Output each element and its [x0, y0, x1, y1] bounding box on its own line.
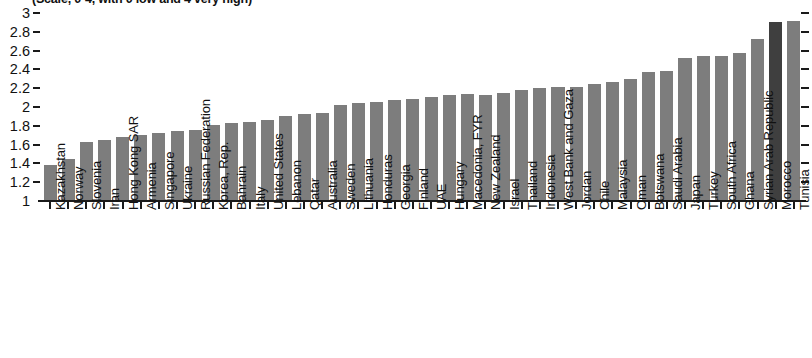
x-axis-category-label: New Zealand [489, 135, 502, 211]
y-axis-tick [33, 12, 40, 14]
x-label-slot: Israel [495, 210, 513, 358]
x-axis-category-label: Oman [635, 175, 648, 210]
y-axis-tick-right [801, 31, 809, 33]
x-axis-category-label: Georgia [399, 164, 412, 210]
x-axis-category-label: Ukraine [181, 166, 194, 210]
y-axis-tick-label: 1 [22, 194, 30, 209]
y-axis-tick-label: 1.4 [10, 156, 30, 171]
x-label-slot: Finland [404, 210, 422, 358]
x-axis-category-label: Syrian Arab Republic [762, 91, 775, 210]
x-label-slot: Norway [59, 210, 77, 358]
x-label-slot: Japan [676, 210, 694, 358]
x-label-slot: Kazakhstan [41, 210, 59, 358]
x-axis-category-label: Tunisia [798, 169, 811, 210]
x-axis-category-label: Hungary [453, 162, 466, 210]
x-label-slot: Turkey [694, 210, 712, 358]
x-label-slot: Thailand [513, 210, 531, 358]
x-axis-category-label: Chile [598, 181, 611, 210]
x-axis-category-label: Saudi Arabia [671, 137, 684, 210]
y-axis-tick-right [801, 12, 809, 14]
x-label-slot: Malaysia [603, 210, 621, 358]
x-axis-category-label: South Africa [725, 141, 738, 210]
x-label-slot: United States [259, 210, 277, 358]
x-label-slot: Australia [313, 210, 331, 358]
x-axis-category-label: Russian Federation [199, 99, 212, 210]
x-label-slot: Jordan [567, 210, 585, 358]
x-axis-category-label: UAE [435, 184, 448, 210]
y-axis-tick-right [801, 87, 809, 89]
x-label-slot: Italy [241, 210, 259, 358]
y-axis-tick [33, 125, 40, 127]
x-axis-category-label: Botswana [653, 154, 666, 210]
x-label-slot: Syrian Arab Republic [748, 210, 766, 358]
x-label-slot: Oman [622, 210, 640, 358]
x-axis-category-label: Armenia [145, 162, 158, 210]
x-axis-category-label: Australia [326, 160, 339, 210]
x-label-slot: Qatar [295, 210, 313, 358]
x-axis-category-label: Singapore [163, 152, 176, 210]
y-axis-tick-label: 1.2 [10, 175, 30, 190]
y-axis-tick-right [801, 50, 809, 52]
y-axis-tick [33, 162, 40, 164]
x-axis-labels: KazakhstanNorwaySloveniaIranHong Kong SA… [41, 210, 803, 358]
y-axis-tick-label: 1.8 [10, 119, 30, 134]
y-axis-tick-label: 3 [22, 6, 30, 21]
x-axis-category-label: Finland [417, 168, 430, 210]
chart-subtitle: (Scale, 0-4, with 0 low and 4 very high) [32, 0, 252, 6]
y-axis-tick [33, 106, 40, 108]
y-axis-tick [33, 87, 40, 89]
x-label-slot: Sweden [331, 210, 349, 358]
x-label-slot: Slovenia [77, 210, 95, 358]
x-axis-category-label: Qatar [308, 178, 321, 210]
y-axis-tick-right [801, 106, 809, 108]
x-axis-tick [49, 202, 51, 209]
x-label-slot: Russian Federation [186, 210, 204, 358]
y-axis-tick [33, 50, 40, 52]
y-axis-tick [33, 68, 40, 70]
y-axis-tick-right [801, 125, 809, 127]
y-axis-tick-right [801, 68, 809, 70]
x-label-slot: Macedonia, FYR [458, 210, 476, 358]
x-label-slot: Ukraine [168, 210, 186, 358]
x-label-slot: Korea, Rep. [204, 210, 222, 358]
y-axis-tick-label: 2 [22, 100, 30, 115]
x-label-slot: Bahrain [222, 210, 240, 358]
y-axis-labels: 32.82.62.42.221.81.61.41.21 [0, 13, 30, 201]
x-label-slot: Hong Kong SAR [114, 210, 132, 358]
y-axis-tick-label: 2.6 [10, 43, 30, 58]
x-axis-category-label: Hong Kong SAR [127, 116, 140, 210]
y-axis-tick [33, 181, 40, 183]
x-label-slot: Hungary [440, 210, 458, 358]
x-axis-category-label: Kazakhstan [54, 143, 67, 210]
y-axis-tick-right [801, 144, 809, 146]
x-axis-category-label: West Bank and Gaza [562, 89, 575, 210]
x-axis-category-label: Lithuania [362, 158, 375, 210]
x-label-slot: Saudi Arabia [658, 210, 676, 358]
x-label-slot: Chile [585, 210, 603, 358]
x-axis-category-label: Malaysia [616, 160, 629, 211]
x-label-slot: Morocco [767, 210, 785, 358]
x-axis-category-label: Ghana [743, 171, 756, 210]
y-axis-tick-label: 2.8 [10, 25, 30, 40]
x-label-slot: Singapore [150, 210, 168, 358]
x-axis-category-label: Turkey [707, 171, 720, 210]
x-axis-category-label: Iran [108, 188, 121, 210]
x-axis-category-label: Morocco [780, 161, 793, 210]
x-label-slot: Honduras [368, 210, 386, 358]
x-axis-category-label: Macedonia, FYR [471, 115, 484, 210]
x-label-slot: Ghana [730, 210, 748, 358]
x-axis-category-label: Lebanon [290, 160, 303, 210]
y-axis-tick-right [801, 162, 809, 164]
y-axis-tick [33, 144, 40, 146]
x-label-slot: Indonesia [531, 210, 549, 358]
x-axis-category-label: Korea, Rep. [217, 142, 230, 210]
x-label-slot: Georgia [386, 210, 404, 358]
x-label-slot: Iran [95, 210, 113, 358]
x-label-slot: Botswana [640, 210, 658, 358]
x-axis-category-label: Sweden [344, 164, 357, 210]
x-axis-category-label: United States [272, 133, 285, 210]
x-axis-category-label: Thailand [526, 161, 539, 210]
y-axis-tick [33, 31, 40, 33]
x-label-slot: Armenia [132, 210, 150, 358]
x-axis-category-label: Japan [689, 175, 702, 210]
